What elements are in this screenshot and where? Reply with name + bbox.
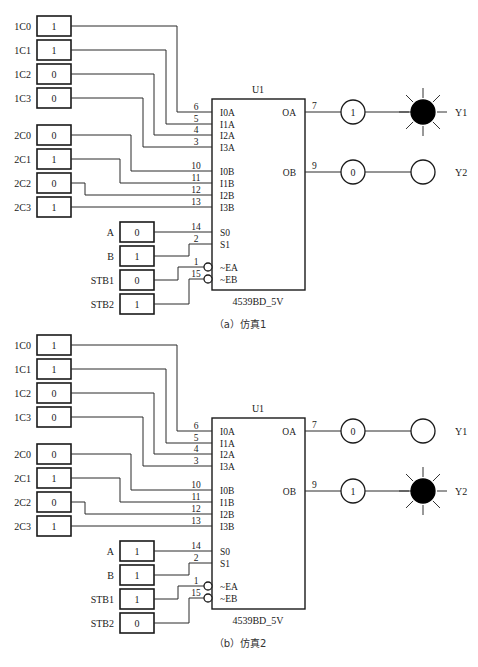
logic-value: 1 xyxy=(52,21,57,32)
logic-value: 0 xyxy=(52,412,57,423)
input-switch-2c1[interactable]: 2C11 xyxy=(14,468,71,488)
chip-pin-label: ~EB xyxy=(220,594,237,604)
logic-value: 0 xyxy=(135,227,140,238)
wire xyxy=(71,417,212,466)
logic-value: 1 xyxy=(52,45,57,56)
input-switch-a[interactable]: A1 xyxy=(107,541,154,561)
input-label: 1C2 xyxy=(14,69,31,80)
light-ray xyxy=(406,501,413,508)
chip-pin-label: I1B xyxy=(220,179,234,189)
logic-value: 0 xyxy=(135,618,140,629)
chip-pin-label: I1A xyxy=(220,439,235,449)
input-switch-b[interactable]: B1 xyxy=(107,565,154,585)
input-switch-1c2[interactable]: 1C20 xyxy=(14,64,71,84)
pin-number: 9 xyxy=(312,480,317,490)
chip-pin-label: I0A xyxy=(220,427,235,437)
input-switch-2c2[interactable]: 2C20 xyxy=(14,173,71,193)
chip-pin-label: I1B xyxy=(220,498,234,508)
input-label: 2C1 xyxy=(14,154,31,165)
input-switch-stb1[interactable]: STB11 xyxy=(91,589,154,609)
input-switch-2c0[interactable]: 2C00 xyxy=(14,125,71,145)
pin-number: 6 xyxy=(194,102,199,112)
chip-pin-label: S0 xyxy=(220,228,230,238)
input-switch-1c0[interactable]: 1C01 xyxy=(14,335,71,355)
chip-ref-label: U1 xyxy=(252,84,264,95)
input-switch-stb1[interactable]: STB10 xyxy=(91,270,154,290)
pin-number: 1 xyxy=(194,576,199,586)
logic-value: 1 xyxy=(52,521,57,532)
chip-pin-label: OA xyxy=(282,427,296,437)
logic-value: 1 xyxy=(135,546,140,557)
wire xyxy=(71,369,212,443)
chip-pin-label: I1A xyxy=(220,120,235,130)
pin-number: 10 xyxy=(191,480,201,490)
input-switch-1c1[interactable]: 1C11 xyxy=(14,359,71,379)
pin-number: 5 xyxy=(194,114,199,124)
chip-pin-label: ~EA xyxy=(220,263,238,273)
wire xyxy=(71,50,212,124)
chip-pin-label: I2A xyxy=(220,131,235,141)
input-switch-2c2[interactable]: 2C20 xyxy=(14,492,71,512)
lamp-bulb xyxy=(411,160,435,184)
pin-number: 2 xyxy=(194,234,199,244)
probe-value: 0 xyxy=(351,426,356,437)
input-switch-1c2[interactable]: 1C20 xyxy=(14,383,71,403)
inversion-bubble xyxy=(204,263,212,271)
wire xyxy=(71,98,212,147)
logic-value: 0 xyxy=(135,275,140,286)
light-ray xyxy=(433,95,440,102)
circuit-simulation-1: U14539BD_5VI0A6I1A5I2A4I3A3I0B10I1B11I2B… xyxy=(14,16,467,330)
pin-number: 14 xyxy=(191,541,201,551)
pin-number: 13 xyxy=(191,516,201,526)
pin-number: 3 xyxy=(194,137,199,147)
output-label: Y2 xyxy=(455,486,467,497)
wire xyxy=(154,244,212,256)
input-label: B xyxy=(107,570,114,581)
chip-pin-label: S1 xyxy=(220,559,230,569)
input-switch-2c0[interactable]: 2C00 xyxy=(14,444,71,464)
logic-value: 1 xyxy=(135,251,140,262)
lamp-off-icon xyxy=(411,160,435,184)
logic-value: 1 xyxy=(52,340,57,351)
pin-number: 6 xyxy=(194,421,199,431)
pin-number: 1 xyxy=(194,257,199,267)
input-switch-1c0[interactable]: 1C01 xyxy=(14,16,71,36)
input-label: B xyxy=(107,251,114,262)
chip-pin-label: S0 xyxy=(220,547,230,557)
input-label: A xyxy=(107,227,115,238)
schematic-canvas: U14539BD_5VI0A6I1A5I2A4I3A3I0B10I1B11I2B… xyxy=(0,0,478,667)
light-ray xyxy=(433,474,440,481)
input-label: 2C2 xyxy=(14,497,31,508)
logic-value: 0 xyxy=(52,130,57,141)
input-switch-1c1[interactable]: 1C11 xyxy=(14,40,71,60)
input-switch-2c3[interactable]: 2C31 xyxy=(14,197,71,217)
input-switch-2c1[interactable]: 2C11 xyxy=(14,149,71,169)
input-switch-stb2[interactable]: STB20 xyxy=(91,613,154,633)
wire xyxy=(71,393,212,454)
light-ray xyxy=(406,95,413,102)
input-switch-1c3[interactable]: 1C30 xyxy=(14,407,71,427)
chip-part-label: 4539BD_5V xyxy=(232,615,284,626)
lamp-bulb xyxy=(411,100,435,124)
input-switch-1c3[interactable]: 1C30 xyxy=(14,88,71,108)
input-switch-2c3[interactable]: 2C31 xyxy=(14,516,71,536)
logic-value: 0 xyxy=(52,69,57,80)
pin-number: 12 xyxy=(191,504,201,514)
input-label: 1C2 xyxy=(14,388,31,399)
input-switch-stb2[interactable]: STB21 xyxy=(91,294,154,314)
pin-number: 11 xyxy=(191,173,200,183)
logic-value: 1 xyxy=(135,570,140,581)
input-switch-a[interactable]: A0 xyxy=(107,222,154,242)
chip-pin-label: OA xyxy=(282,108,296,118)
input-label: 2C0 xyxy=(14,130,31,141)
pin-number: 14 xyxy=(191,222,201,232)
chip-pin-label: ~EA xyxy=(220,582,238,592)
input-switch-b[interactable]: B1 xyxy=(107,246,154,266)
light-ray xyxy=(433,122,440,129)
input-label: 2C0 xyxy=(14,449,31,460)
input-label: 2C1 xyxy=(14,473,31,484)
input-label: STB1 xyxy=(91,594,114,605)
wire xyxy=(71,74,212,135)
input-label: 2C3 xyxy=(14,202,31,213)
input-label: 1C0 xyxy=(14,340,31,351)
